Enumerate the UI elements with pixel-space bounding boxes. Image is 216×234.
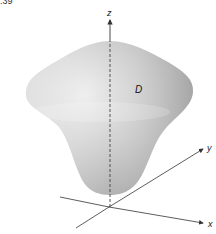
figure-number: .39 xyxy=(0,0,13,6)
z-axis-label: z xyxy=(106,8,112,18)
x-axis xyxy=(109,207,203,223)
region-label-d: D xyxy=(135,84,142,95)
figure: .39 xyxy=(0,0,216,234)
solid-region-diagram: z y x D xyxy=(0,0,216,234)
x-axis-label: x xyxy=(207,219,213,229)
neg-y-axis xyxy=(76,207,109,228)
y-axis-label: y xyxy=(206,143,212,153)
neg-x-axis xyxy=(60,197,109,207)
